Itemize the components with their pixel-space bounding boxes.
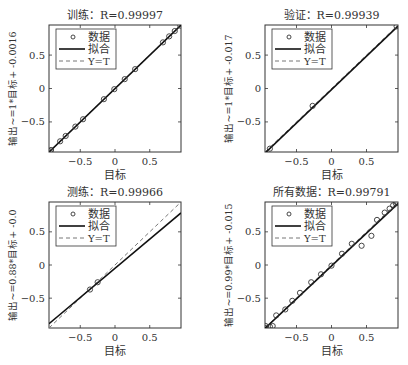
x-tick-label: −0.5 (284, 332, 308, 343)
legend: 数据拟合Y=T (56, 206, 116, 246)
chart-title: 训练：R=0.99997 (67, 8, 163, 22)
legend: 数据拟合Y=T (272, 206, 332, 246)
chart-panel-all-data: 所有数据：R=0.99791−0.500.5−0.500.5目标输出~=0.99… (223, 185, 400, 358)
data-point (382, 210, 387, 215)
chart-panel-validation: 验证：R=0.99939−0.500.5−0.500.5目标输出~=1*目标+ … (223, 8, 399, 182)
y-tick-label: 0 (39, 260, 45, 271)
legend-label-yt: Y=T (303, 56, 326, 67)
regression-figure: 训练：R=0.99997−0.500.5−0.500.5目标输出~=1*目标+ … (0, 0, 408, 365)
legend: 数据拟合Y=T (56, 29, 116, 69)
x-tick-label: 0 (328, 332, 334, 343)
x-axis-label: 目标 (321, 168, 343, 182)
y-tick-label: 0.5 (29, 50, 45, 61)
chart-title: 测练：R=0.99966 (67, 185, 163, 199)
legend-label-data: 数据 (88, 207, 110, 221)
legend-label-data: 数据 (88, 30, 110, 44)
y-tick-label: −0.5 (237, 293, 261, 304)
x-tick-label: 0 (112, 156, 118, 167)
x-tick-label: −0.5 (68, 332, 92, 343)
y-tick-label: 0.5 (245, 50, 261, 61)
y-tick-label: 0.5 (245, 226, 261, 237)
legend-label-yt: Y=T (87, 233, 110, 244)
y-tick-label: 0 (255, 260, 261, 271)
x-tick-label: 0.5 (359, 332, 375, 343)
data-point (359, 243, 364, 248)
legend-label-yt: Y=T (303, 233, 326, 244)
y-tick-label: −0.5 (237, 116, 261, 127)
x-axis-label: 目标 (104, 168, 126, 182)
y-tick-label: 0 (255, 83, 261, 94)
x-tick-label: 0 (328, 156, 334, 167)
x-axis-label: 目标 (321, 344, 343, 358)
legend-label-fit: 拟合 (304, 219, 326, 233)
y-tick-label: −0.5 (21, 116, 45, 127)
legend-label-data: 数据 (304, 207, 326, 221)
legend-label-fit: 拟合 (88, 42, 110, 56)
chart-panel-test: 测练：R=0.99966−0.500.5−0.500.5目标输出~=0.88*目… (7, 185, 181, 358)
legend-label-fit: 拟合 (88, 219, 110, 233)
legend: 数据拟合Y=T (272, 29, 332, 69)
x-tick-label: 0.5 (359, 156, 375, 167)
y-tick-label: 0.5 (29, 226, 45, 237)
y-tick-label: 0 (39, 83, 45, 94)
x-tick-label: 0 (112, 332, 118, 343)
x-tick-label: −0.5 (68, 156, 92, 167)
x-tick-label: 0.5 (142, 156, 158, 167)
legend-label-yt: Y=T (87, 56, 110, 67)
chart-panel-training: 训练：R=0.99997−0.500.5−0.500.5目标输出~=1*目标+ … (7, 8, 183, 182)
x-axis-label: 目标 (104, 344, 126, 358)
y-axis-label: 输出~=1*目标+ -0.0016 (7, 31, 18, 145)
legend-label-data: 数据 (304, 30, 326, 44)
x-tick-label: −0.5 (284, 156, 308, 167)
chart-title: 所有数据：R=0.99791 (273, 185, 391, 199)
data-point (369, 233, 374, 238)
y-axis-label: 输出~=0.88*目标+ -0.0 (7, 209, 18, 320)
legend-label-fit: 拟合 (304, 42, 326, 56)
y-axis-label: 输出~=0.99*目标+ -0.015 (223, 203, 234, 326)
x-tick-label: 0.5 (142, 332, 158, 343)
y-axis-label: 输出~=1*目标+ -0.017 (223, 34, 234, 142)
chart-title: 验证：R=0.99939 (284, 8, 380, 22)
y-tick-label: −0.5 (21, 293, 45, 304)
